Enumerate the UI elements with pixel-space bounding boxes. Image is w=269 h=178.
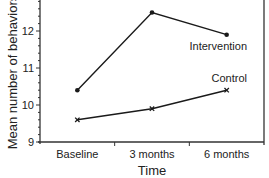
- y-tick-label: 11: [23, 62, 34, 74]
- y-axis-title: Mean number of behaviors: [5, 0, 20, 149]
- x-category-label: 3 months: [129, 148, 175, 160]
- series-line: [77, 90, 226, 120]
- data-point-dot: [75, 88, 80, 93]
- series-label-intervention: Intervention: [190, 40, 247, 52]
- y-tick-label: 12: [22, 25, 34, 37]
- y-axis-ticks: 9101112: [22, 1, 40, 148]
- x-category-label: 6 months: [204, 148, 250, 160]
- data-point-dot: [150, 10, 155, 15]
- series-layer: [75, 10, 229, 122]
- data-point-dot: [224, 32, 229, 37]
- x-axis-ticks: Baseline3 months6 months: [56, 142, 250, 160]
- series-label-control: Control: [212, 72, 247, 84]
- y-tick-label: 9: [28, 136, 34, 148]
- line-chart: 9101112 Baseline3 months6 months Mean nu…: [0, 0, 269, 178]
- x-axis-title: Time: [138, 163, 166, 178]
- series-control: [75, 88, 229, 122]
- x-category-label: Baseline: [56, 148, 98, 160]
- y-tick-label: 10: [22, 99, 34, 111]
